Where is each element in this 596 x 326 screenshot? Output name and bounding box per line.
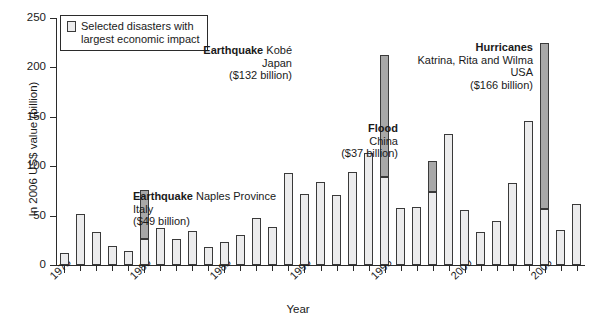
y-tick-50 [50, 216, 56, 217]
bar-1977 [92, 232, 101, 265]
annotation-kobe-line-3: ($132 billion) [170, 69, 292, 82]
annotation-flood-china-title: Flood [368, 122, 398, 134]
x-tick-1983 [192, 266, 193, 271]
bar-1995 [380, 177, 389, 265]
y-tick-150 [50, 117, 56, 118]
annotation-kobe-title: Earthquake [203, 44, 263, 56]
bar-1976 [76, 214, 85, 265]
bar-2001 [476, 232, 485, 265]
x-axis-title: Year [0, 303, 596, 315]
bar-1993 [348, 172, 357, 265]
bar-1990 [300, 194, 309, 265]
x-tick-1998 [433, 266, 434, 271]
bar-2006 [556, 230, 565, 265]
annotation-kobe-line-1: Earthquake Kobé [170, 44, 292, 57]
annotation-naples-line-3: ($49 billion) [133, 215, 276, 228]
y-tick-label-50: 50 [16, 210, 46, 222]
bar-1980 [140, 239, 149, 265]
x-tick-1976 [80, 266, 81, 271]
bar-1979 [124, 251, 133, 265]
bar-1975 [60, 253, 69, 265]
bar-1978 [108, 246, 117, 265]
bar-highlight-2005 [540, 43, 549, 209]
y-tick-label-0: 0 [16, 259, 46, 271]
y-tick-label-250: 250 [16, 12, 46, 24]
x-tick-1988 [272, 266, 273, 271]
bar-1996 [396, 208, 405, 265]
bar-highlight-1998 [428, 161, 437, 192]
bar-1986 [236, 235, 245, 265]
bar-2000 [460, 210, 469, 265]
annotation-naples-line-2: Italy [133, 203, 276, 216]
disaster-losses-bar-chart: In 2006 US$ value (billion) 050100150200… [0, 0, 596, 326]
annotation-flood-china: FloodChina($37 billion) [280, 122, 398, 160]
legend-swatch-icon [67, 21, 76, 32]
x-tick-2002 [497, 266, 498, 271]
x-tick-2003 [513, 266, 514, 271]
y-tick-label-100: 100 [16, 160, 46, 172]
bar-2005 [540, 209, 549, 265]
x-tick-1991 [321, 266, 322, 271]
annotation-hurricanes-line-2: Katrina, Rita and Wilma [370, 54, 533, 67]
x-tick-1986 [240, 266, 241, 271]
y-tick-label-200: 200 [16, 61, 46, 73]
x-tick-2006 [561, 266, 562, 271]
x-tick-1982 [176, 266, 177, 271]
x-tick-1992 [337, 266, 338, 271]
bar-1994 [364, 153, 373, 265]
bar-1982 [172, 239, 181, 265]
x-tick-1987 [256, 266, 257, 271]
bar-1999 [444, 134, 453, 265]
bar-1981 [156, 228, 165, 265]
bar-1998 [428, 192, 437, 265]
bar-1988 [268, 227, 277, 265]
annotation-naples-line-1: Earthquake Naples Province [133, 190, 276, 203]
bar-2004 [524, 121, 533, 265]
annotation-hurricanes-line-1: Hurricanes [370, 41, 533, 54]
bar-2003 [508, 183, 517, 265]
x-tick-1977 [96, 266, 97, 271]
y-tick-label-150: 150 [16, 111, 46, 123]
x-tick-2007 [577, 266, 578, 271]
bar-1989 [284, 173, 293, 265]
annotation-flood-china-line-2: China [280, 135, 398, 148]
annotation-naples-title: Earthquake [133, 190, 193, 202]
x-tick-1996 [401, 266, 402, 271]
annotation-kobe-line-2: Japan [170, 57, 292, 70]
y-axis-line [56, 18, 57, 265]
bar-1997 [412, 207, 421, 265]
y-tick-100 [50, 166, 56, 167]
y-tick-200 [50, 67, 56, 68]
legend-label: Selected disasters with largest economic… [81, 20, 200, 45]
bar-1983 [188, 231, 197, 265]
y-tick-250 [50, 18, 56, 19]
bar-1991 [316, 182, 325, 265]
x-tick-1978 [112, 266, 113, 271]
bar-1992 [332, 195, 341, 265]
x-tick-1997 [417, 266, 418, 271]
x-tick-1981 [160, 266, 161, 271]
x-tick-1993 [353, 266, 354, 271]
bar-1985 [220, 242, 229, 265]
annotation-hurricanes-line-4: ($166 billion) [370, 79, 533, 92]
bar-2002 [492, 221, 501, 265]
annotation-flood-china-line-1: Flood [280, 122, 398, 135]
annotation-hurricanes: HurricanesKatrina, Rita and WilmaUSA($16… [370, 41, 533, 91]
annotation-naples: Earthquake Naples ProvinceItaly($49 bill… [133, 190, 276, 228]
annotation-kobe: Earthquake KobéJapan($132 billion) [170, 44, 292, 82]
annotation-hurricanes-line-3: USA [370, 66, 533, 79]
x-tick-2001 [481, 266, 482, 271]
bar-1984 [204, 247, 213, 265]
annotation-hurricanes-title: Hurricanes [476, 41, 533, 53]
bar-2007 [572, 204, 581, 265]
annotation-flood-china-line-3: ($37 billion) [280, 147, 398, 160]
